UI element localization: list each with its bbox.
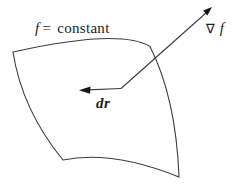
gradient-label-f: f bbox=[220, 20, 224, 36]
gradient-label: ∇f bbox=[206, 21, 224, 36]
dr-arrow-line bbox=[88, 89, 121, 90]
dr-label: dr bbox=[96, 96, 110, 111]
gradient-arrow-line bbox=[121, 13, 207, 89]
surface-label: f=constant bbox=[35, 21, 110, 36]
gradient-level-surface-diagram: f=constant ∇f dr bbox=[0, 0, 243, 188]
surface-label-value: constant bbox=[57, 20, 109, 36]
surface-label-equals: = bbox=[42, 20, 51, 36]
dr-arrowhead-icon bbox=[79, 87, 90, 94]
nabla-icon: ∇ bbox=[206, 21, 215, 36]
surface-label-f: f bbox=[35, 20, 39, 36]
